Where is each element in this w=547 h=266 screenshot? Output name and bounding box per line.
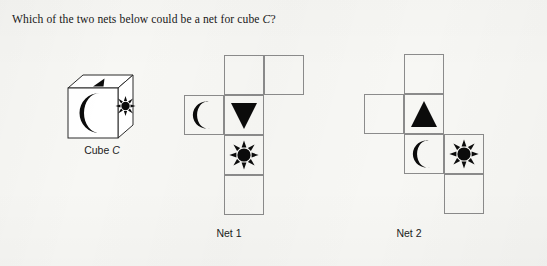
crescent-moon-icon xyxy=(188,99,220,131)
sun-icon xyxy=(116,96,136,116)
question-text: Which of the two nets below could be a n… xyxy=(12,13,276,26)
net2-cell-triangle[interactable] xyxy=(404,94,444,134)
cube-label-symbol: C xyxy=(112,144,120,156)
net1-cell-top-right[interactable] xyxy=(264,55,304,95)
net2-cell-left[interactable] xyxy=(364,94,404,134)
net2-cell-bottom[interactable] xyxy=(444,174,484,214)
net1-cell-top-middle[interactable] xyxy=(224,55,264,95)
triangle-down-icon xyxy=(228,99,260,131)
net1-cell-bottom[interactable] xyxy=(224,175,264,215)
net2-cell-sun[interactable] xyxy=(444,134,484,174)
net1-cell-triangle[interactable] xyxy=(224,95,264,135)
cube-c-label: Cube C xyxy=(52,144,152,156)
sun-icon xyxy=(228,139,260,171)
cube-label-text: Cube xyxy=(84,144,112,156)
net1-cell-sun[interactable] xyxy=(224,135,264,175)
net-2-label: Net 2 xyxy=(364,227,454,239)
net2-cell-top[interactable] xyxy=(404,54,444,94)
question-text-before: Which of the two nets below could be a n… xyxy=(12,13,263,26)
net2-cell-moon[interactable] xyxy=(404,134,444,174)
worksheet-page: Which of the two nets below could be a n… xyxy=(0,0,547,266)
sun-icon xyxy=(448,138,480,170)
crescent-moon-icon xyxy=(408,138,440,170)
net-1-label: Net 1 xyxy=(184,227,274,239)
net1-cell-moon[interactable] xyxy=(184,95,224,135)
cube-front-face xyxy=(68,88,118,138)
question-text-after: ? xyxy=(270,13,275,26)
triangle-up-icon xyxy=(408,98,440,130)
